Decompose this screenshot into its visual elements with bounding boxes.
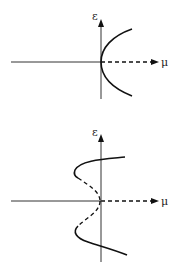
y-axis-label: ε	[92, 10, 98, 23]
x-axis-arrow-icon	[151, 198, 159, 204]
lower-unstable-branch	[78, 201, 100, 226]
x-axis-label: μ	[161, 56, 168, 69]
y-axis-arrow-icon	[98, 19, 104, 27]
x-axis-arrow-icon	[151, 59, 159, 65]
diagram-bottom: μ ε	[11, 126, 168, 262]
upper-stable-branch	[74, 157, 125, 178]
y-axis-arrow-icon	[98, 134, 104, 142]
upper-unstable-branch	[78, 178, 100, 201]
y-axis-label: ε	[92, 126, 98, 139]
x-axis-label: μ	[161, 195, 168, 208]
diagram-top: μ ε	[11, 10, 168, 99]
bifurcation-diagrams: μ ε μ ε	[0, 0, 180, 267]
